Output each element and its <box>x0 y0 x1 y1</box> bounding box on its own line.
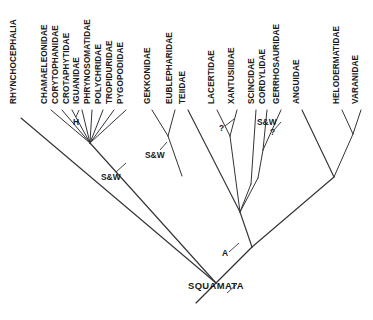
branch-teiidae <box>188 110 240 212</box>
branch-varanoidea-stem <box>334 134 353 177</box>
taxon-label-chamaeleonidae: CHAMAELEONIDAE <box>40 24 49 104</box>
leader-anguimorpha-a <box>229 243 239 252</box>
tree-branches <box>21 110 361 303</box>
taxon-label-gekkonidae: GEKKONIDAE <box>143 47 152 104</box>
leader-iguania-sw <box>116 163 126 172</box>
taxon-label-teiidae: TEIIDAE <box>178 71 187 104</box>
node-label-gekkota-sw: S&W <box>145 150 165 160</box>
branch-pygopodidae <box>90 110 126 143</box>
branch-scleroglossa-stem <box>240 212 252 247</box>
taxon-label-varanidae: VARANIDAE <box>351 55 360 104</box>
node-leader-lines <box>76 110 281 293</box>
branch-varanidae <box>353 110 361 134</box>
branch-anguidae <box>302 110 334 177</box>
taxon-label-helodermatidae: HELODERMATIDAE <box>332 25 341 104</box>
branch-cordyliformes-stem <box>258 150 263 178</box>
taxon-label-corytophanidae: CORYTOPHANIDAE <box>51 25 60 104</box>
taxon-label-eublepharidae: EUBLEPHARIDAE <box>165 32 174 104</box>
taxon-label-iguanidae: IGUANIDAE <box>72 57 81 104</box>
branch-scincomorpha-stem <box>240 178 258 212</box>
taxon-label-anguidae: ANGUIDAE <box>292 59 301 104</box>
branch-lacertoidea-stem <box>230 136 240 212</box>
leader-iguania-h <box>76 110 79 117</box>
branch-cordylidae <box>263 110 267 150</box>
taxon-label-crotaphytidae: CROTAPHYTIDAE <box>62 32 71 104</box>
branch-scincidae-stem <box>240 184 251 212</box>
branch-gekkonidae <box>152 110 168 136</box>
node-label-anguimorpha-a: A <box>222 248 228 258</box>
node-label-cordylid-query: ? <box>270 127 275 137</box>
taxon-label-polychridae: POLYCHRIDAE <box>94 44 103 104</box>
leader-gekkota-sw <box>160 142 167 150</box>
node-label-iguania-h: H <box>73 117 79 127</box>
taxon-label-gerrhosauridae: GERRHOSAURIDAE <box>272 23 281 104</box>
taxon-label-phrynosomatidae: PHRYNOSOMATIDAE <box>83 19 92 104</box>
node-labels: H S&W S&W ? S&W ? A SQUAMATA <box>73 117 277 291</box>
branch-xantusiidae <box>230 110 237 136</box>
taxon-label-tropiduridae: TROPIDURIDAE <box>105 40 114 104</box>
branch-scincidae <box>251 110 256 184</box>
branch-rhynchocephalia <box>21 118 216 283</box>
branch-anguimorpha-stem <box>252 177 334 247</box>
phylogenetic-tree-figure: RHYNCHOCEPHALIA CHAMAELEONIDAE CORYTOPHA… <box>0 0 373 320</box>
branch-eublepharidae <box>168 110 175 136</box>
taxon-label-cordylidae: CORDYLIDAE <box>258 48 267 104</box>
taxon-label-scincidae: SCINCIDAE <box>247 58 256 104</box>
taxon-label-pygopodidae: PYGOPODIDAE <box>116 41 125 104</box>
taxon-labels: RHYNCHOCEPHALIA CHAMAELEONIDAE CORYTOPHA… <box>9 19 360 104</box>
branch-gekkota-stem <box>168 136 182 176</box>
branch-tropiduridae <box>90 110 114 143</box>
taxon-label-xantusiidae: XANTUSIIDAE <box>227 47 236 104</box>
taxon-label-lacertidae: LACERTIDAE <box>207 50 216 104</box>
node-label-lacertid-query: ? <box>219 123 224 133</box>
node-label-scincomorph-sw: S&W <box>257 117 277 127</box>
branch-iguania-clade-stem <box>90 143 216 283</box>
branch-chamaeleonidae <box>51 110 90 143</box>
branch-helodermatidae <box>342 110 353 134</box>
taxon-label-rhynchocephalia: RHYNCHOCEPHALIA <box>9 19 18 104</box>
node-label-iguania-sw: S&W <box>101 172 121 182</box>
node-label-squamata: SQUAMATA <box>188 280 244 291</box>
